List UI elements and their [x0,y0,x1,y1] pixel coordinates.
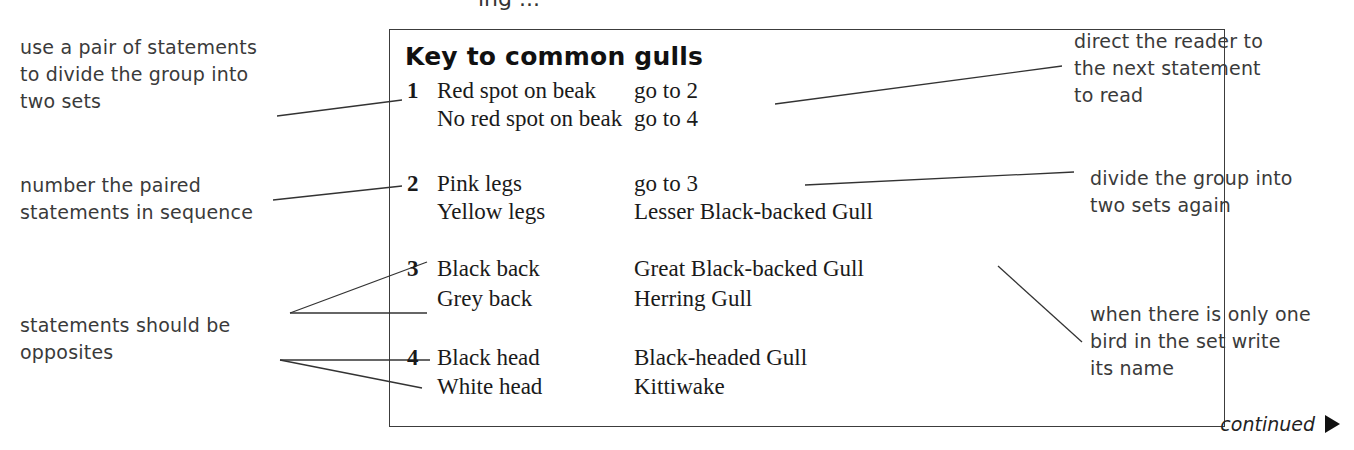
result: go to 3 [634,170,698,198]
leader-line-divide-again [805,172,1074,185]
pair-number: 3 [407,255,419,283]
top-text-fragment: ing ... [478,0,540,11]
leader-line-number-sequence [273,186,402,200]
statement: Red spot on beak [437,77,596,105]
result: Herring Gull [634,285,752,313]
result: Black-headed Gull [634,344,807,372]
pair-number: 4 [407,344,419,372]
result: Great Black-backed Gull [634,255,864,283]
result: Kittiwake [634,373,725,401]
annotation-opposites: statements should be opposites [20,312,231,366]
result: Lesser Black-backed Gull [634,198,873,226]
annotation-only-one-bird: when there is only one bird in the set w… [1090,301,1311,382]
continued-link[interactable]: continued [1220,413,1340,435]
statement: Black back [437,255,540,283]
leader-line-opposites-4b [280,360,422,388]
statement: Grey back [437,285,532,313]
result: go to 2 [634,77,698,105]
right-triangle-icon [1325,415,1340,433]
annotation-direct-reader: direct the reader to the next statement … [1074,28,1263,109]
leader-line-direct-reader [775,66,1062,104]
statement: Yellow legs [437,198,545,226]
continued-label: continued [1220,413,1315,435]
annotation-pair-statements: use a pair of statements to divide the g… [20,34,257,115]
pair-number: 2 [407,170,419,198]
statement: Pink legs [437,170,522,198]
pair-number: 1 [407,77,419,105]
annotation-number-sequence: number the paired statements in sequence [20,172,253,226]
leader-line-only-one-bird [998,266,1082,342]
statement: No red spot on beak [437,105,622,133]
statement: White head [437,373,542,401]
leader-line-pair-statements [277,100,402,116]
statement: Black head [437,344,540,372]
result: go to 4 [634,105,698,133]
annotation-divide-again: divide the group into two sets again [1090,165,1293,219]
key-title: Key to common gulls [405,42,703,71]
